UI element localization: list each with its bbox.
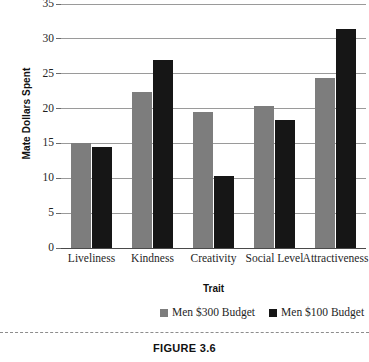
bar-group	[305, 4, 366, 248]
y-tick-label-25: 25	[14, 68, 54, 80]
bar	[153, 60, 173, 248]
chart-legend: Men $300 BudgetMen $100 Budget	[160, 307, 365, 319]
bar	[336, 29, 356, 248]
bar-group	[122, 4, 183, 248]
bar-groups	[61, 4, 366, 248]
bar	[71, 143, 91, 248]
figure-caption: FIGURE 3.6	[0, 342, 369, 354]
figure-container: Mate Dollars Spent 35302520151050 Liveli…	[0, 0, 369, 362]
y-tick-label-20: 20	[14, 103, 54, 115]
y-tick-label-35: 35	[14, 0, 54, 10]
bar	[275, 120, 295, 248]
legend-swatch-icon	[269, 309, 277, 317]
x-tick-label: Attractiveness	[290, 252, 369, 265]
y-tick-label-5: 5	[14, 207, 54, 219]
caption-divider	[0, 332, 369, 333]
legend-label: Men $300 Budget	[172, 307, 255, 319]
bar	[92, 147, 112, 248]
bar	[193, 112, 213, 248]
bar	[254, 106, 274, 248]
y-tick-label-30: 30	[14, 33, 54, 45]
x-axis-title: Trait	[61, 283, 366, 294]
bar	[214, 176, 234, 248]
legend-item: Men $300 Budget	[160, 307, 255, 319]
legend-swatch-icon	[160, 309, 168, 317]
bar-group	[183, 4, 244, 248]
y-tick-label-10: 10	[14, 172, 54, 184]
legend-item: Men $100 Budget	[269, 307, 364, 319]
bar	[132, 92, 152, 248]
legend-label: Men $100 Budget	[281, 307, 364, 319]
y-tick-label-15: 15	[14, 137, 54, 149]
bar	[315, 78, 335, 248]
x-axis-tick-labels: LivelinessKindnessCreativitySocial Level…	[61, 252, 366, 270]
plot-area: 35302520151050	[61, 4, 366, 248]
bar-group	[61, 4, 122, 248]
bar-group	[244, 4, 305, 248]
